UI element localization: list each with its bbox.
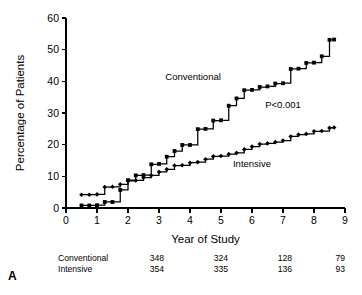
x-axis-tick-label: 6 xyxy=(249,214,255,226)
series-marker-conventional xyxy=(273,82,277,86)
risk-table-cell: 79 xyxy=(335,253,345,263)
series-marker-intensive xyxy=(95,192,100,197)
series-marker-intensive xyxy=(180,163,185,168)
series-marker-intensive xyxy=(332,125,337,130)
x-axis-tick-label: 9 xyxy=(342,214,348,226)
series-marker-intensive xyxy=(265,141,270,146)
series-marker-intensive xyxy=(211,154,216,159)
series-marker-conventional xyxy=(242,88,246,92)
series-marker-conventional xyxy=(204,127,208,131)
risk-table-cell: 93 xyxy=(335,264,345,274)
series-marker-intensive xyxy=(257,142,262,147)
series-marker-intensive xyxy=(118,182,123,187)
series-marker-intensive xyxy=(110,184,115,189)
series-marker-conventional xyxy=(219,118,223,122)
series-marker-conventional xyxy=(281,81,285,85)
y-axis-tick-label: 30 xyxy=(47,107,59,119)
series-marker-intensive xyxy=(164,167,169,172)
series-marker-conventional xyxy=(173,149,177,153)
panel-label: A xyxy=(8,269,17,283)
series-marker-intensive xyxy=(242,147,247,152)
series-marker-intensive xyxy=(102,185,107,190)
series-line-conventional xyxy=(82,40,335,206)
y-axis-tick-label: 10 xyxy=(47,170,59,182)
series-marker-conventional xyxy=(266,85,270,89)
series-marker-conventional xyxy=(211,119,215,123)
series-marker-intensive xyxy=(304,132,309,137)
x-axis-tick-label: 8 xyxy=(311,214,317,226)
series-marker-conventional xyxy=(134,173,138,177)
series-marker-intensive xyxy=(288,134,293,139)
risk-table-cell: 324 xyxy=(214,253,229,263)
chart-axes xyxy=(66,18,345,208)
series-marker-intensive xyxy=(319,129,324,134)
risk-table-cell: 335 xyxy=(214,264,229,274)
series-marker-conventional xyxy=(304,61,308,65)
series-marker-conventional xyxy=(80,204,84,208)
x-axis-tick-label: 5 xyxy=(218,214,224,226)
series-marker-conventional xyxy=(87,204,91,208)
pvalue-annotation: P<0.001 xyxy=(265,99,301,110)
x-axis-title: Year of Study xyxy=(171,233,240,245)
series-marker-conventional xyxy=(258,85,262,89)
series-marker-conventional xyxy=(297,67,301,71)
series-marker-conventional xyxy=(165,155,169,159)
risk-table-cell: 348 xyxy=(150,253,165,263)
series-marker-intensive xyxy=(172,163,177,168)
series-marker-conventional xyxy=(328,38,332,42)
series-marker-conventional xyxy=(250,88,254,92)
risk-table-cell: 136 xyxy=(278,264,293,274)
x-axis-tick-label: 4 xyxy=(187,214,193,226)
series-marker-conventional xyxy=(227,104,231,108)
series-marker-conventional xyxy=(111,200,115,204)
risk-table-cell: 354 xyxy=(150,264,165,274)
x-axis-tick-label: 0 xyxy=(63,214,69,226)
series-marker-conventional xyxy=(312,61,316,65)
y-axis-title: Percentage of Patients xyxy=(14,55,26,172)
series-marker-conventional xyxy=(188,143,192,147)
x-axis-tick-label: 3 xyxy=(156,214,162,226)
series-marker-intensive xyxy=(79,192,84,197)
series-marker-conventional xyxy=(180,143,184,147)
x-axis-tick-label: 2 xyxy=(125,214,131,226)
series-marker-intensive xyxy=(250,144,255,149)
series-marker-conventional xyxy=(157,162,161,166)
series-marker-conventional xyxy=(103,200,107,204)
risk-table-row-label: Conventional xyxy=(58,253,108,263)
series-marker-intensive xyxy=(157,170,162,175)
y-axis-tick-label: 0 xyxy=(53,202,59,214)
kaplan-meier-chart: 01020304050600123456789Percentage of Pat… xyxy=(0,0,362,295)
series-marker-intensive xyxy=(312,129,317,134)
series-marker-intensive xyxy=(219,154,224,159)
y-axis-tick-label: 60 xyxy=(47,12,59,24)
x-axis-tick-label: 7 xyxy=(280,214,286,226)
series-marker-intensive xyxy=(203,157,208,162)
y-axis-tick-label: 20 xyxy=(47,138,59,150)
series-marker-conventional xyxy=(95,203,99,207)
series-marker-intensive xyxy=(133,178,138,183)
figure-panel-a: 01020304050600123456789Percentage of Pat… xyxy=(0,0,362,295)
series-marker-intensive xyxy=(188,160,193,165)
x-axis-tick-label: 1 xyxy=(94,214,100,226)
series-marker-intensive xyxy=(87,192,92,197)
series-marker-conventional xyxy=(196,127,200,131)
series-marker-conventional xyxy=(289,67,293,71)
series-label-conventional: Conventional xyxy=(165,71,220,82)
series-marker-conventional xyxy=(235,97,239,101)
series-marker-intensive xyxy=(195,160,200,165)
risk-table-cell: 128 xyxy=(278,253,293,263)
series-marker-conventional xyxy=(118,188,122,192)
series-label-intensive: Intensive xyxy=(233,158,271,169)
series-marker-intensive xyxy=(327,126,332,131)
series-marker-conventional xyxy=(332,38,336,42)
y-axis-tick-label: 50 xyxy=(47,43,59,55)
y-axis-tick-label: 40 xyxy=(47,75,59,87)
series-marker-conventional xyxy=(320,54,324,58)
series-marker-conventional xyxy=(149,162,153,166)
risk-table-row-label: Intensive xyxy=(58,264,93,274)
